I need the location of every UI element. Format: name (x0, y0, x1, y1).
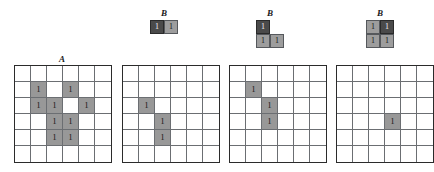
matrix-cell-r0c5 (310, 66, 326, 82)
structuring-element-1: B 1 1 (142, 8, 186, 38)
se3-cell-r1c0: 1 (366, 34, 380, 48)
matrix-cell-r3c4 (79, 114, 95, 130)
matrix-cell-r5c1 (31, 146, 47, 162)
matrix-cell-r3c3: 1 (385, 114, 401, 130)
matrix-cell-r2c0 (15, 98, 31, 114)
se2-cell-r0c1 (270, 20, 284, 34)
structuring-element-1-grid: 1 1 (150, 20, 178, 34)
matrix-cell-r1c4 (79, 82, 95, 98)
matrix-cell-r1c0 (337, 82, 353, 98)
matrix-cell-r3c5 (310, 114, 326, 130)
se2-cell-r0c0: 1 (256, 20, 270, 34)
matrix-cell-r1c3 (171, 82, 187, 98)
matrix-cell-r4c1 (353, 130, 369, 146)
structuring-element-2: B 1 1 1 (248, 8, 292, 52)
matrix-cell-r3c0 (230, 114, 246, 130)
matrix-cell-r5c5 (417, 146, 433, 162)
matrix-cell-r2c2 (369, 98, 385, 114)
matrix-cell-r1c3: 1 (63, 82, 79, 98)
matrix-cell-r1c5 (95, 82, 111, 98)
matrix-cell-r1c0 (123, 82, 139, 98)
matrix-cell-r1c2 (369, 82, 385, 98)
matrix-cell-r5c2 (369, 146, 385, 162)
matrix-cell-r5c3 (278, 146, 294, 162)
matrix-cell-r4c5 (417, 130, 433, 146)
matrix-cell-r4c3 (278, 130, 294, 146)
matrix-cell-r0c2 (369, 66, 385, 82)
matrix-group-result-2: 111 (229, 54, 325, 164)
matrix-cell-r0c1 (353, 66, 369, 82)
matrix-cell-r5c4 (401, 146, 417, 162)
matrix-cell-r3c0 (15, 114, 31, 130)
matrix-cell-r0c1 (31, 66, 47, 82)
matrix-cell-r5c2 (262, 146, 278, 162)
matrix-cell-r4c5 (310, 130, 326, 146)
se3-cell-r0c1: 1 (380, 20, 394, 34)
structuring-element-3-grid: 1 1 1 1 (366, 20, 394, 48)
se1-cell-r0c1: 1 (164, 20, 178, 34)
matrix-cell-r1c4 (294, 82, 310, 98)
matrix-cell-r5c1 (353, 146, 369, 162)
matrix-cell-r4c0 (123, 130, 139, 146)
matrix-cell-r5c2 (47, 146, 63, 162)
se2-cell-r1c0: 1 (256, 34, 270, 48)
matrix-cell-r0c4 (79, 66, 95, 82)
matrix-cell-r2c5 (95, 98, 111, 114)
matrix-cell-r4c3 (171, 130, 187, 146)
matrix-cell-r5c2 (155, 146, 171, 162)
matrix-cell-r5c3 (171, 146, 187, 162)
matrix-cell-r2c4 (294, 98, 310, 114)
matrix-cell-r4c0 (337, 130, 353, 146)
matrix-cell-r2c1 (246, 98, 262, 114)
matrix-cell-r4c2 (369, 130, 385, 146)
matrix-cell-r1c5 (203, 82, 219, 98)
matrix-cell-r2c0 (123, 98, 139, 114)
matrix-cell-r0c1 (246, 66, 262, 82)
matrix-cell-r1c1: 1 (246, 82, 262, 98)
matrix-cell-r2c2 (155, 98, 171, 114)
matrix-cell-r0c2 (155, 66, 171, 82)
matrix-cell-r3c4 (187, 114, 203, 130)
matrix-cell-r2c0 (337, 98, 353, 114)
matrix-cell-r0c0 (337, 66, 353, 82)
matrix-cell-r0c3 (278, 66, 294, 82)
matrix-a-label: A (14, 54, 110, 64)
matrix-cell-r3c3: 1 (63, 114, 79, 130)
se3-cell-r0c0: 1 (366, 20, 380, 34)
matrix-cell-r4c3: 1 (63, 130, 79, 146)
matrix-cell-r3c4 (294, 114, 310, 130)
matrix-cell-r3c3 (171, 114, 187, 130)
matrix-cell-r3c4 (401, 114, 417, 130)
matrix-group-result-3: 1 (336, 54, 432, 164)
matrix-cell-r0c4 (294, 66, 310, 82)
matrix-cell-r2c4: 1 (79, 98, 95, 114)
matrix-cell-r1c3 (278, 82, 294, 98)
matrix-result-1-grid: 111 (122, 65, 220, 163)
matrix-cell-r5c4 (294, 146, 310, 162)
matrix-cell-r1c5 (417, 82, 433, 98)
matrix-cell-r4c1 (31, 130, 47, 146)
matrix-cell-r3c3 (278, 114, 294, 130)
matrix-cell-r1c0 (230, 82, 246, 98)
matrix-cell-r0c0 (15, 66, 31, 82)
matrix-cell-r0c1 (139, 66, 155, 82)
matrix-cell-r3c5 (417, 114, 433, 130)
matrix-cell-r3c2: 1 (262, 114, 278, 130)
se1-cell-r0c0: 1 (150, 20, 164, 34)
matrix-cell-r4c2: 1 (155, 130, 171, 146)
matrix-cell-r0c5 (95, 66, 111, 82)
matrix-cell-r0c2 (262, 66, 278, 82)
matrix-cell-r4c0 (15, 130, 31, 146)
matrix-cell-r3c0 (123, 114, 139, 130)
matrix-cell-r1c4 (187, 82, 203, 98)
structuring-element-2-grid: 1 1 1 (256, 20, 284, 48)
matrix-cell-r2c1: 1 (139, 98, 155, 114)
matrix-cell-r1c0 (15, 82, 31, 98)
matrix-cell-r5c3 (63, 146, 79, 162)
matrix-cell-r2c2: 1 (262, 98, 278, 114)
matrix-cell-r0c3 (171, 66, 187, 82)
matrix-cell-r5c4 (187, 146, 203, 162)
matrix-cell-r1c1 (139, 82, 155, 98)
matrix-cell-r5c0 (123, 146, 139, 162)
